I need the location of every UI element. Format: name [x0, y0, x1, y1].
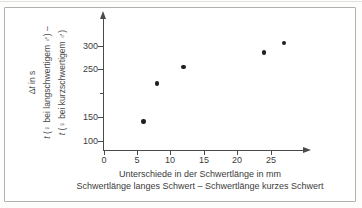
- y-tick: [98, 141, 103, 142]
- y-axis-line: [103, 18, 104, 151]
- y-tick: [98, 69, 103, 70]
- data-point: [282, 41, 286, 45]
- y-tick: [100, 93, 103, 94]
- x-tick-label: 15: [192, 155, 216, 166]
- data-point: [262, 50, 266, 54]
- y-tick-label: 250: [68, 64, 98, 75]
- y-tick-label: 150: [68, 112, 98, 123]
- x-axis-title-line-2: Schwertlänge langes Schwert – Schwertlän…: [40, 181, 360, 192]
- figure-scan: Δt in s t (♀ bei langschwertigem ♂) – t …: [0, 0, 362, 208]
- y-tick: [98, 117, 103, 118]
- data-point: [155, 81, 159, 85]
- x-tick-label: 20: [225, 155, 249, 166]
- x-tick-label: 5: [125, 155, 149, 166]
- x-axis-title-line-1: Unterschiede in der Schwertlänge in mm: [40, 169, 360, 180]
- y-axis-arrow-icon: [100, 11, 106, 19]
- y-tick: [98, 46, 103, 47]
- x-axis-arrow-icon: [303, 147, 311, 153]
- data-point: [141, 119, 145, 123]
- x-tick-label: 0: [92, 155, 116, 166]
- data-point: [181, 65, 185, 69]
- y-tick-label: 300: [68, 41, 98, 52]
- y-tick-label: 100: [68, 136, 98, 147]
- x-tick-label: 10: [158, 155, 182, 166]
- x-tick-label: 25: [259, 155, 283, 166]
